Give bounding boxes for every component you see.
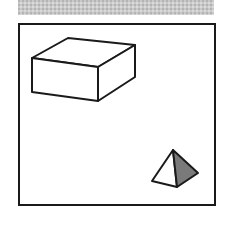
box-shape [32,38,135,101]
scene-canvas [0,0,228,232]
pyramid-dark-face [173,150,198,187]
pyramid-shape [152,150,198,187]
